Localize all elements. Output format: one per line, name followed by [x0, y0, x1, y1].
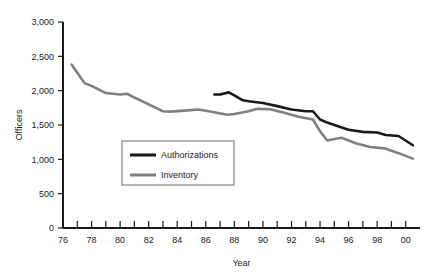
x-axis-tick-label: 98 — [372, 235, 382, 245]
x-axis-tick-label: 80 — [115, 235, 125, 245]
x-axis-tick-label: 88 — [229, 235, 239, 245]
x-axis-tick-label: 00 — [401, 235, 411, 245]
x-axis-tick-label: 86 — [201, 235, 211, 245]
y-axis-tick-label: 500 — [39, 189, 54, 199]
y-axis-tick-label: 0 — [49, 223, 54, 233]
x-axis-tick-label: 76 — [58, 235, 68, 245]
y-axis-tick-label: 1,000 — [31, 155, 54, 165]
y-axis-tick-label: 2,500 — [31, 52, 54, 62]
chart-figure: RANDMR1479-4.4 05001,0001,5002,0002,5003… — [0, 0, 441, 276]
legend-label-authorizations: Authorizations — [161, 150, 219, 160]
x-axis-title: Year — [232, 258, 250, 268]
x-axis-tick-label: 90 — [258, 235, 268, 245]
x-axis-tick-label: 84 — [172, 235, 182, 245]
chart-legend: AuthorizationsInventory — [122, 141, 234, 185]
x-axis-tick-label: 82 — [144, 235, 154, 245]
y-axis-title: Officers — [14, 109, 24, 140]
y-axis-tick-label: 3,000 — [31, 17, 54, 27]
y-axis-tick-label: 2,000 — [31, 86, 54, 96]
x-axis-tick-label: 96 — [344, 235, 354, 245]
officers-line-chart: 05001,0001,5002,0002,5003,000 7678808284… — [0, 0, 441, 276]
x-axis-tick-label: 78 — [87, 235, 97, 245]
legend-label-inventory: Inventory — [161, 170, 199, 180]
x-axis-tick-label: 94 — [315, 235, 325, 245]
x-axis-tick-label: 92 — [286, 235, 296, 245]
y-axis-tick-label: 1,500 — [31, 120, 54, 130]
